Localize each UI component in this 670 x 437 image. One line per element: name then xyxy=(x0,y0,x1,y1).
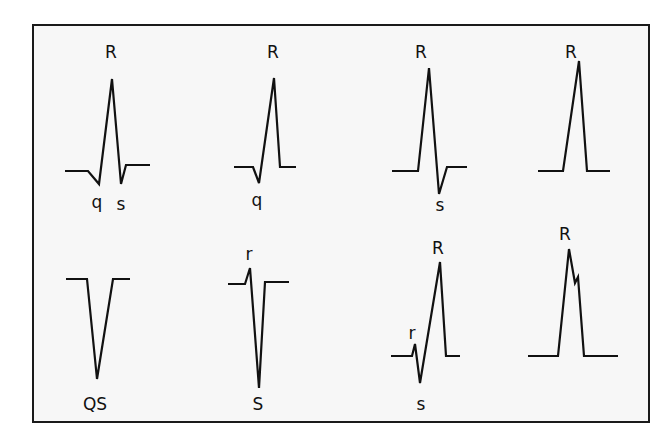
label-s: s xyxy=(417,394,426,414)
label-r: r xyxy=(246,244,253,264)
complex-R: R xyxy=(538,42,610,171)
label-QS: QS xyxy=(83,394,107,414)
label-s: s xyxy=(117,194,126,214)
label-s: s xyxy=(436,195,445,215)
complex-QS: QS xyxy=(66,279,130,414)
label-S: S xyxy=(253,394,264,414)
label-R: R xyxy=(432,238,444,258)
qrs-waveform xyxy=(234,78,296,183)
complex-notched-R: R xyxy=(528,224,618,356)
qrs-waveform xyxy=(528,249,618,356)
complex-rsR: R r s xyxy=(391,238,460,414)
qrs-waveform xyxy=(228,268,289,388)
qrs-waveform xyxy=(538,61,610,171)
complex-qRs: R q s xyxy=(65,42,150,214)
label-R: R xyxy=(415,42,427,62)
complex-Rs: R s xyxy=(392,42,467,215)
qrs-waveform xyxy=(66,279,130,379)
qrs-waveform xyxy=(391,262,460,383)
qrs-morphology-diagram: R q s R q R s R QS r S R r s R xyxy=(0,0,670,437)
label-R: R xyxy=(267,42,279,62)
label-q: q xyxy=(252,190,263,210)
qrs-waveform xyxy=(65,79,150,184)
complex-rS: r S xyxy=(228,244,289,414)
label-R: R xyxy=(105,42,117,62)
qrs-waveform xyxy=(392,68,467,194)
label-R: R xyxy=(565,42,577,62)
label-R: R xyxy=(559,224,571,244)
complex-qR: R q xyxy=(234,42,296,210)
label-r: r xyxy=(409,323,416,343)
label-q: q xyxy=(92,192,103,212)
